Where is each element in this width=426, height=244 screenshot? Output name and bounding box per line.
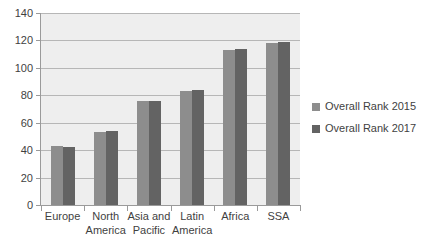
y-axis-tick-mark (36, 123, 41, 124)
legend-swatch-icon (312, 125, 320, 133)
bar (180, 91, 192, 205)
x-axis-category-label: Asia and Pacific (127, 209, 170, 237)
bar-group (127, 13, 170, 205)
bar-group (84, 13, 127, 205)
y-axis-tick-mark (36, 40, 41, 41)
y-axis-tick-label: 0 (27, 200, 33, 211)
bar-group (171, 13, 214, 205)
legend-label: Overall Rank 2015 (325, 101, 416, 112)
legend-entry[interactable]: Overall Rank 2017 (312, 123, 416, 134)
x-axis-category-label: Europe (41, 209, 84, 223)
x-axis-category-label: Latin America (171, 209, 214, 237)
legend-entry[interactable]: Overall Rank 2015 (312, 101, 416, 112)
x-axis-tick-mark (84, 206, 85, 211)
y-axis-tick-label: 40 (21, 145, 33, 156)
x-axis-tick-mark (127, 206, 128, 211)
x-axis: EuropeNorth AmericaAsia and PacificLatin… (41, 209, 300, 244)
x-axis-tick-mark (214, 206, 215, 211)
bar (223, 50, 235, 205)
legend-swatch-icon (312, 103, 320, 111)
plot-area (41, 13, 300, 205)
bar (106, 131, 118, 205)
x-axis-category-label: North America (84, 209, 127, 237)
y-axis-tick-label: 60 (21, 117, 33, 128)
y-axis: 020406080100120140 (0, 0, 33, 244)
y-axis-tick-label: 120 (15, 35, 33, 46)
bar (63, 147, 75, 205)
x-axis-tick-mark (171, 206, 172, 211)
x-axis-category-label: SSA (257, 209, 300, 223)
bar (94, 132, 106, 205)
legend-label: Overall Rank 2017 (325, 123, 416, 134)
chart-legend: Overall Rank 2015Overall Rank 2017 (312, 101, 416, 145)
y-axis-tick-label: 100 (15, 62, 33, 73)
y-axis-tick-label: 20 (21, 172, 33, 183)
y-axis-tick-mark (36, 150, 41, 151)
bar (235, 49, 247, 205)
bar (266, 43, 278, 205)
x-axis-category-label: Africa (214, 209, 257, 223)
bar (149, 101, 161, 205)
bar-group (257, 13, 300, 205)
x-axis-tick-mark (300, 206, 301, 211)
bar-group (41, 13, 84, 205)
y-axis-tick-label: 140 (15, 8, 33, 19)
bar (137, 101, 149, 205)
y-axis-tick-mark (36, 95, 41, 96)
bar (51, 146, 63, 205)
y-axis-tick-mark (36, 13, 41, 14)
y-axis-tick-label: 80 (21, 90, 33, 101)
x-axis-tick-mark (257, 206, 258, 211)
bar (192, 90, 204, 205)
bar (278, 42, 290, 205)
bar-group (214, 13, 257, 205)
bar-chart: 020406080100120140 EuropeNorth AmericaAs… (0, 0, 426, 244)
y-axis-tick-mark (36, 178, 41, 179)
x-axis-tick-mark (41, 206, 42, 211)
y-axis-tick-mark (36, 68, 41, 69)
